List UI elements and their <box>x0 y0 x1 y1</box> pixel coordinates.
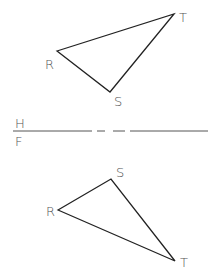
folding-label-f: F <box>15 134 22 149</box>
top-view-triangle <box>57 14 174 92</box>
folding-label-h: H <box>15 116 25 131</box>
front-label-t: T <box>180 255 188 270</box>
front-label-r: R <box>46 204 55 219</box>
front-view-triangle <box>58 179 175 261</box>
top-label-s: S <box>114 94 122 109</box>
orthographic-projection-diagram: T R S H F S R T <box>0 0 213 278</box>
top-label-r: R <box>45 57 54 72</box>
top-label-t: T <box>179 10 187 25</box>
front-label-s: S <box>116 165 124 180</box>
